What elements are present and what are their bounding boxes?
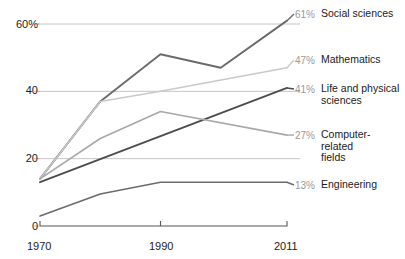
- x-axis-baseline: [40, 221, 287, 226]
- series-label-line: Computer-: [321, 129, 371, 141]
- end-value-life-and-physical-sciences: 41%: [295, 84, 315, 95]
- series-label-computer-related-fields: Computer- related fields: [321, 129, 371, 164]
- data-series-lines: [40, 14, 294, 216]
- series-leader-social-sciences: [287, 14, 294, 21]
- series-label-line: sciences: [321, 95, 399, 107]
- series-label-line: Social sciences: [321, 8, 393, 20]
- ytick-label-40: 40: [2, 84, 38, 96]
- series-leader-mathematics: [287, 60, 294, 68]
- end-value-computer-related-fields: 27%: [295, 130, 315, 141]
- gridlines: [38, 24, 300, 159]
- series-line-engineering: [40, 182, 287, 216]
- xtick-label-2011: 2011: [274, 240, 298, 252]
- end-value-mathematics: 47%: [295, 55, 315, 66]
- series-label-line: Engineering: [321, 179, 377, 191]
- series-label-line: Mathematics: [321, 54, 381, 66]
- line-chart: 60% 40 20 0 1970 1990 2011 61% 47% 41% 2…: [0, 0, 405, 259]
- series-label-social-sciences: Social sciences: [321, 8, 393, 20]
- xtick-label-1970: 1970: [27, 240, 51, 252]
- xtick-label-1990: 1990: [149, 240, 173, 252]
- series-label-line: fields: [321, 152, 371, 164]
- series-line-life-and-physical-sciences: [40, 88, 287, 182]
- end-value-social-sciences: 61%: [295, 9, 315, 20]
- series-leader-life-and-physical-sciences: [287, 88, 294, 89]
- series-label-line: Life and physical: [321, 83, 399, 95]
- series-leader-engineering: [287, 182, 294, 185]
- series-line-social-sciences: [40, 21, 287, 179]
- end-value-engineering: 13%: [295, 180, 315, 191]
- ytick-label-20: 20: [2, 152, 38, 164]
- series-label-engineering: Engineering: [321, 179, 377, 191]
- series-label-mathematics: Mathematics: [321, 54, 381, 66]
- ytick-label-60: 60%: [2, 18, 38, 30]
- series-line-mathematics: [40, 68, 287, 179]
- ytick-label-0: 0: [2, 220, 38, 232]
- series-label-life-and-physical-sciences: Life and physical sciences: [321, 83, 399, 106]
